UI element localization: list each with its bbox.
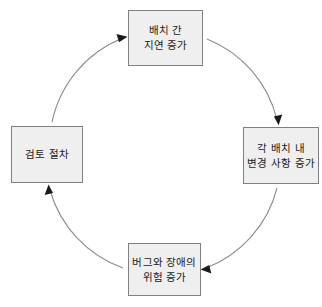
cycle-node-right: 각 배치 내 변경 사항 증가	[243, 127, 319, 184]
arrowhead-top-to-right	[274, 114, 282, 125]
cycle-node-bottom-label: 버그와 장애의 위험 증가	[129, 255, 199, 285]
arc-right-to-bottom	[206, 188, 277, 268]
arc-left-to-top	[52, 38, 123, 122]
arc-top-to-right	[207, 39, 277, 120]
arrowhead-left-to-top	[117, 34, 128, 42]
cycle-node-left: 검토 절차	[11, 126, 83, 183]
cycle-node-top: 배치 간 지연 증가	[128, 10, 203, 66]
cycle-node-bottom: 버그와 장애의 위험 증가	[128, 243, 201, 296]
cycle-node-right-label: 각 배치 내 변경 사항 증가	[244, 141, 317, 171]
cycle-node-left-label: 검토 절차	[22, 147, 72, 162]
diagram-canvas: 배치 간 지연 증가 각 배치 내 변경 사항 증가 버그와 장애의 위험 증가…	[0, 0, 322, 307]
arc-bottom-to-left	[50, 190, 123, 268]
cycle-node-top-label: 배치 간 지연 증가	[141, 23, 191, 53]
arrowhead-bottom-to-left	[45, 184, 53, 195]
